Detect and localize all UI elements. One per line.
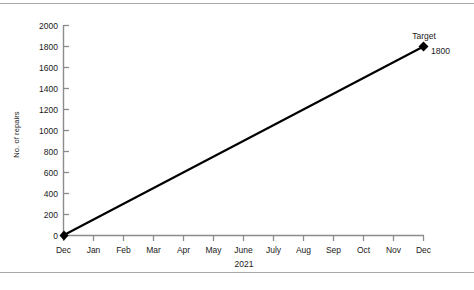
y-tick-label-1200: 1200 — [18, 105, 58, 115]
x-tick-label-dec-2021: Dec — [404, 245, 444, 255]
y-tick-label-1600: 1600 — [18, 63, 58, 73]
target-annotation-value: 1800 — [431, 46, 450, 56]
y-tick-label-1800: 1800 — [18, 42, 58, 52]
y-tick-label-2000: 2000 — [18, 21, 58, 31]
y-tick-label-800: 800 — [18, 147, 58, 157]
series-line-cumulative-repairs — [64, 47, 424, 236]
y-tick-label-200: 200 — [18, 210, 58, 220]
y-tick-label-600: 600 — [18, 168, 58, 178]
target-annotation-label: Target — [389, 31, 459, 41]
data-marker-start-diamond — [60, 231, 69, 241]
y-tick-label-1000: 1000 — [18, 126, 58, 136]
y-axis-ticks — [64, 26, 70, 236]
x-axis-title: 2021 — [204, 259, 284, 269]
x-axis-ticks — [64, 236, 424, 242]
y-tick-label-0: 0 — [18, 231, 58, 241]
y-tick-label-400: 400 — [18, 189, 58, 199]
y-tick-label-1400: 1400 — [18, 84, 58, 94]
data-marker-target-diamond — [419, 42, 429, 52]
